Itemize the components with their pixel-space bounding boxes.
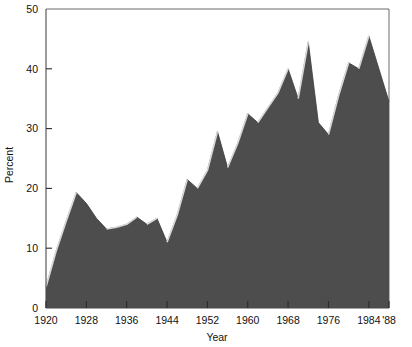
x-tick-label: 1976 xyxy=(317,314,341,326)
y-tick-label: 50 xyxy=(26,3,38,15)
x-tick-label: 1968 xyxy=(276,314,300,326)
y-tick-label: 40 xyxy=(26,63,38,75)
x-tick-label: 1920 xyxy=(34,314,58,326)
chart-figure: 01020304050 1920192819361944195219601968… xyxy=(0,0,412,347)
x-tick-label: 1984 xyxy=(357,314,381,326)
y-tick-label: 10 xyxy=(26,242,38,254)
y-tick-label: 30 xyxy=(26,122,38,134)
x-tick-label: 1960 xyxy=(236,314,260,326)
y-tick-label: 20 xyxy=(26,182,38,194)
x-axis-title: Year xyxy=(206,331,228,343)
y-axis-title: Percent xyxy=(3,147,15,183)
x-tick-label: 1928 xyxy=(75,314,99,326)
area-chart: 01020304050 1920192819361944195219601968… xyxy=(0,0,412,347)
x-tick-label: '88 xyxy=(382,314,396,326)
x-tick-label: 1936 xyxy=(115,314,139,326)
x-tick-label: 1952 xyxy=(196,314,220,326)
x-tick-label: 1944 xyxy=(155,314,179,326)
y-tick-label: 0 xyxy=(32,302,38,314)
